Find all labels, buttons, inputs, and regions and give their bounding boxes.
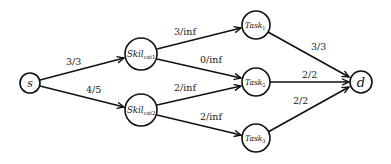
edge-label: 3/3 [66,56,81,67]
edge-label: 2/2 [293,95,308,106]
node-subscript: 3 [262,138,265,144]
edge-skil2-task2: 2/inf [157,82,241,105]
node-label: d [357,75,365,90]
node-label: Task [245,78,263,87]
edge-label: 2/2 [302,69,317,80]
edge-task3-d: 2/2 [268,87,349,132]
node-label: Skil [127,105,144,115]
edge-label: 3/3 [311,41,326,52]
edge-skil1-task1: 3/inf [157,26,241,49]
node-subscript: 1 [262,25,265,31]
edge-s-skil2: 4/5 [40,84,124,107]
edge-label: 2/inf [200,111,223,122]
node-skil-cat1: Skilcat1 [125,38,157,70]
node-label: Task [245,134,263,143]
edge-label: 2/inf [174,82,197,93]
node-subscript: cat1 [143,54,155,60]
flow-network-diagram: 3/3 4/5 3/inf 0/inf 2/inf 2/inf 3/3 2/2 … [0,0,391,164]
edge-label: 0/inf [200,54,223,65]
node-label: Task [245,21,263,30]
node-d: d [350,71,372,93]
edge-s-skil1: 3/3 [40,56,124,80]
edge-skil1-task2: 0/inf [157,54,241,78]
edge-label: 4/5 [86,84,101,95]
node-task1: Task1 [242,11,270,39]
node-task3: Task3 [242,124,270,152]
edge-skil2-task3: 2/inf [157,111,241,135]
node-label: Skil [127,49,144,59]
node-skil-cat2: Skilcat2 [125,94,157,126]
edge-label: 3/inf [174,26,197,37]
node-subscript: cat2 [143,110,155,116]
node-subscript: 2 [262,82,265,88]
node-label: s [27,77,33,90]
node-task2: Task2 [242,68,270,96]
node-s: s [20,73,40,93]
